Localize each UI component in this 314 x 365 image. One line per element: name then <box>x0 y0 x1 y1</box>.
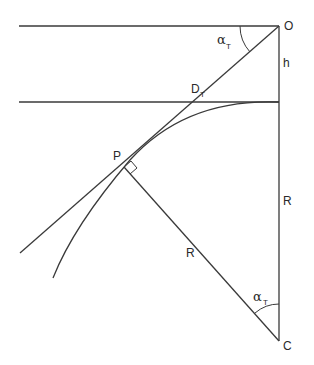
label-r-slant: R <box>186 246 195 260</box>
label-r-vertical: R <box>283 194 292 208</box>
label-c: C <box>283 339 292 353</box>
svg-text:D: D <box>191 82 200 96</box>
label-h: h <box>283 56 290 70</box>
label-p: P <box>113 149 121 163</box>
earth-arc <box>53 102 279 278</box>
label-angle-top: α T <box>217 32 231 51</box>
svg-text:T: T <box>263 298 268 307</box>
horizon-diagram: O h R R C P D T α T α T <box>0 0 314 365</box>
right-angle-marker <box>124 161 137 174</box>
label-o: O <box>284 19 293 33</box>
angle-arc-top <box>240 26 250 52</box>
tangent-line <box>20 26 279 253</box>
svg-text:α: α <box>217 32 226 47</box>
svg-text:α: α <box>253 289 262 304</box>
label-angle-bottom: α T <box>253 289 268 307</box>
svg-text:T: T <box>200 90 205 99</box>
radius-line-pc <box>124 167 279 341</box>
svg-text:T: T <box>226 42 231 51</box>
